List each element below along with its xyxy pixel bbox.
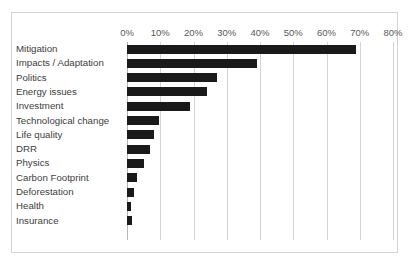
bar-row <box>127 42 393 56</box>
x-tick-label: 20% <box>184 26 203 40</box>
bar-row <box>127 71 393 85</box>
category-label: Politics <box>16 71 123 85</box>
category-label: Insurance <box>16 214 123 228</box>
bar-row <box>127 56 393 70</box>
x-tick-label: 40% <box>250 26 269 40</box>
bar <box>127 87 207 96</box>
category-label: Impacts / Adaptation <box>16 56 123 70</box>
bar <box>127 173 137 182</box>
bar <box>127 116 159 125</box>
bar <box>127 130 154 139</box>
bar <box>127 216 132 225</box>
category-label: Life quality <box>16 128 123 142</box>
bar <box>127 73 217 82</box>
gridline-80 <box>393 42 394 240</box>
bar <box>127 159 144 168</box>
bar-row <box>127 199 393 213</box>
bar <box>127 59 257 68</box>
bar-row <box>127 156 393 170</box>
bar-row <box>127 142 393 156</box>
bar-row <box>127 85 393 99</box>
category-label: DRR <box>16 142 123 156</box>
category-label: Carbon Footprint <box>16 171 123 185</box>
category-label: Health <box>16 199 123 213</box>
bars-layer <box>127 42 393 240</box>
category-label: Investment <box>16 99 123 113</box>
bar <box>127 145 150 154</box>
bar-row <box>127 114 393 128</box>
x-tick-label: 10% <box>151 26 170 40</box>
bar-row <box>127 185 393 199</box>
bar <box>127 45 356 54</box>
category-label: Deforestation <box>16 185 123 199</box>
bar-row <box>127 214 393 228</box>
bar <box>127 102 190 111</box>
chart-frame: 0%10%20%30%40%50%60%70%80% MitigationImp… <box>11 12 398 253</box>
bar <box>127 188 134 197</box>
category-label: Mitigation <box>16 42 123 56</box>
x-tick-label: 70% <box>350 26 369 40</box>
category-label: Energy issues <box>16 85 123 99</box>
category-label: Technological change <box>16 114 123 128</box>
x-tick-label: 30% <box>217 26 236 40</box>
plot-area <box>127 42 393 240</box>
bar-row <box>127 99 393 113</box>
category-label: Physics <box>16 156 123 170</box>
bar-row <box>127 171 393 185</box>
y-axis-category-labels: MitigationImpacts / AdaptationPoliticsEn… <box>12 42 125 240</box>
x-tick-label: 60% <box>317 26 336 40</box>
x-tick-label: 50% <box>284 26 303 40</box>
bar-chart: 0%10%20%30%40%50%60%70%80% MitigationImp… <box>12 13 397 252</box>
bar-row <box>127 128 393 142</box>
x-axis-tick-labels: 0%10%20%30%40%50%60%70%80% <box>12 26 397 40</box>
bar <box>127 202 131 211</box>
x-tick-label: 0% <box>120 26 134 40</box>
x-tick-label: 80% <box>383 26 402 40</box>
